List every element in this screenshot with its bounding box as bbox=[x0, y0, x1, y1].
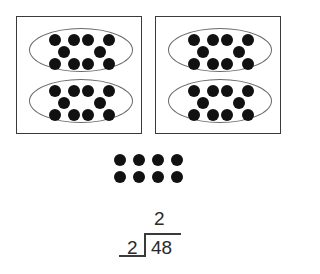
division-bracket-top bbox=[145, 233, 181, 235]
counter-dot bbox=[207, 34, 219, 46]
counter-dot bbox=[103, 58, 115, 70]
group-oval bbox=[168, 79, 272, 123]
counter-dot bbox=[221, 58, 233, 70]
counter-dot bbox=[242, 58, 254, 70]
counter-dot bbox=[49, 34, 61, 46]
loose-dot bbox=[133, 154, 145, 166]
counter-dot bbox=[82, 58, 94, 70]
counter-dot bbox=[242, 34, 254, 46]
division-bracket-vertical bbox=[144, 233, 146, 256]
counter-dot bbox=[233, 97, 245, 109]
counter-dot bbox=[49, 85, 61, 97]
divisor: 2 bbox=[127, 238, 138, 257]
counter-dot bbox=[49, 109, 61, 121]
counter-dot bbox=[58, 97, 70, 109]
counter-dot bbox=[68, 58, 80, 70]
counter-dot bbox=[94, 46, 106, 58]
counter-dot bbox=[68, 85, 80, 97]
counter-dot bbox=[103, 109, 115, 121]
counter-dot bbox=[207, 58, 219, 70]
counter-dot bbox=[188, 85, 200, 97]
loose-dot bbox=[114, 154, 126, 166]
quotient: 2 bbox=[154, 209, 165, 228]
counter-dot bbox=[103, 85, 115, 97]
counter-dot bbox=[197, 97, 209, 109]
loose-dot bbox=[152, 171, 164, 183]
counter-dot bbox=[221, 34, 233, 46]
counter-dot bbox=[188, 34, 200, 46]
counter-dot bbox=[82, 34, 94, 46]
counter-dot bbox=[207, 85, 219, 97]
counter-dot bbox=[188, 58, 200, 70]
loose-dot bbox=[171, 154, 183, 166]
counter-dot bbox=[188, 109, 200, 121]
counter-dot bbox=[58, 46, 70, 58]
loose-dot bbox=[171, 171, 183, 183]
counter-dot bbox=[221, 109, 233, 121]
counter-dot bbox=[207, 109, 219, 121]
counter-dot bbox=[197, 46, 209, 58]
loose-dot bbox=[133, 171, 145, 183]
counter-dot bbox=[94, 97, 106, 109]
loose-dot bbox=[114, 171, 126, 183]
counter-dot bbox=[82, 109, 94, 121]
group-oval bbox=[29, 28, 133, 72]
counter-dot bbox=[103, 34, 115, 46]
counter-dot bbox=[242, 85, 254, 97]
loose-dot bbox=[152, 154, 164, 166]
counter-dot bbox=[242, 109, 254, 121]
counter-dot bbox=[68, 109, 80, 121]
counter-dot bbox=[49, 58, 61, 70]
counter-dot bbox=[221, 85, 233, 97]
counter-dot bbox=[233, 46, 245, 58]
counter-dot bbox=[82, 85, 94, 97]
group-oval bbox=[29, 79, 133, 123]
counter-dot bbox=[68, 34, 80, 46]
dividend: 48 bbox=[151, 238, 172, 257]
group-oval bbox=[168, 28, 272, 72]
